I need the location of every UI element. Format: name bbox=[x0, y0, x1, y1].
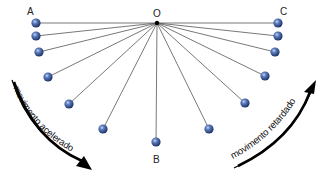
pendulum-string bbox=[157, 23, 245, 103]
pivot-point bbox=[155, 21, 159, 25]
pendulum-string bbox=[157, 23, 209, 129]
pendulum-ball bbox=[270, 47, 279, 56]
pendulum-ball bbox=[31, 18, 40, 27]
pendulum-ball bbox=[64, 99, 73, 108]
pendulum-diagram: O A C B movimento acelerado movimento re… bbox=[0, 0, 330, 179]
pendulum-string bbox=[36, 23, 157, 36]
pendulum-ball bbox=[273, 18, 282, 27]
diagram-canvas: O A C B movimento acelerado movimento re… bbox=[0, 0, 330, 179]
pendulum-string bbox=[157, 23, 265, 76]
pendulum-string bbox=[69, 23, 157, 104]
arrow-retarded: movimento retardado bbox=[228, 80, 316, 168]
label-A: A bbox=[27, 6, 34, 17]
pendulum-strings bbox=[36, 23, 278, 142]
pendulum-string bbox=[103, 23, 157, 129]
pendulum-string bbox=[48, 23, 157, 77]
pendulum-ball bbox=[273, 31, 282, 40]
text-accelerated: movimento acelerado bbox=[11, 84, 75, 153]
label-O: O bbox=[153, 8, 161, 19]
pendulum-ball bbox=[31, 31, 40, 40]
pendulum-ball bbox=[260, 71, 269, 80]
pendulum-ball bbox=[98, 124, 107, 133]
pendulum-string bbox=[157, 23, 275, 52]
arrow-head-icon bbox=[304, 80, 316, 94]
pendulum-ball bbox=[43, 72, 52, 81]
pendulum-ball bbox=[151, 137, 160, 146]
pendulum-string bbox=[156, 23, 157, 142]
label-B: B bbox=[153, 154, 160, 165]
pendulum-ball bbox=[240, 98, 249, 107]
pendulum-ball bbox=[34, 47, 43, 56]
label-C: C bbox=[280, 6, 287, 17]
pendulum-string bbox=[39, 23, 157, 52]
pendulum-string bbox=[157, 23, 278, 36]
pendulum-ball bbox=[204, 124, 213, 133]
